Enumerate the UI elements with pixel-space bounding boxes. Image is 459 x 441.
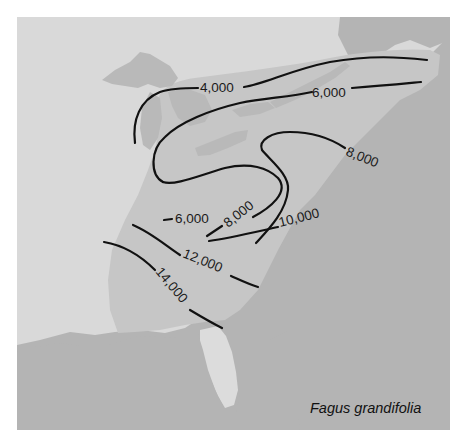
species-label: Fagus grandifolia [310,400,421,416]
contour-label-6000-south: 6,000 [175,211,209,226]
contour-6000-tick [164,219,172,220]
contour-label-6000-north: 6,000 [312,85,346,100]
species-range-map: 4,000 6,000 6,000 8,000 8,000 10,000 12,… [0,0,459,441]
contour-label-4000: 4,000 [200,80,234,95]
